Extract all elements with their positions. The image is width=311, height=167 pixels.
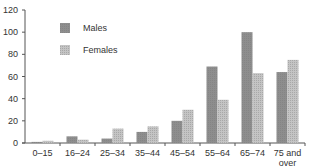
x-tick-label: 35–44: [135, 148, 160, 158]
legend: MalesFemales: [60, 23, 118, 55]
bar-chart: 020406080100120 0–1516–2425–3435–4445–54…: [0, 0, 311, 167]
legend-swatch-males: [60, 23, 70, 33]
y-tick-label: 120: [3, 5, 18, 15]
bar-males-3: [137, 132, 148, 143]
bar-females-5: [218, 100, 229, 143]
y-tick-label: 0: [13, 138, 18, 148]
x-tick-label: 55–64: [205, 148, 230, 158]
bar-males-7: [277, 72, 288, 143]
bar-males-1: [67, 136, 78, 143]
bar-females-2: [113, 129, 124, 143]
bar-males-0: [32, 142, 43, 143]
bar-females-3: [148, 126, 159, 143]
bar-males-6: [242, 32, 253, 143]
bar-males-4: [172, 121, 183, 143]
x-tick-label: 25–34: [100, 148, 125, 158]
x-tick-label: 0–15: [32, 148, 52, 158]
y-tick-label: 60: [8, 72, 18, 82]
legend-swatch-females: [60, 45, 70, 55]
legend-label-females: Females: [83, 45, 118, 55]
x-tick-label: 65–74: [240, 148, 265, 158]
y-tick-label: 20: [8, 116, 18, 126]
y-axis: 020406080100120: [3, 5, 25, 148]
bar-females-4: [183, 110, 194, 143]
x-axis: 0–1516–2425–3435–4445–5455–6465–7475 and…: [22, 143, 305, 167]
x-tick-label: 75 andover: [274, 148, 302, 167]
bar-females-1: [78, 140, 89, 143]
bar-females-0: [43, 141, 54, 143]
bar-males-5: [207, 67, 218, 143]
bars: [32, 32, 299, 143]
x-tick-label: 16–24: [65, 148, 90, 158]
bar-males-2: [102, 139, 113, 143]
y-tick-label: 40: [8, 94, 18, 104]
x-tick-label: 45–54: [170, 148, 195, 158]
bar-females-6: [253, 73, 264, 143]
bar-females-7: [288, 60, 299, 143]
legend-label-males: Males: [83, 23, 108, 33]
y-tick-label: 80: [8, 49, 18, 59]
y-tick-label: 100: [3, 27, 18, 37]
